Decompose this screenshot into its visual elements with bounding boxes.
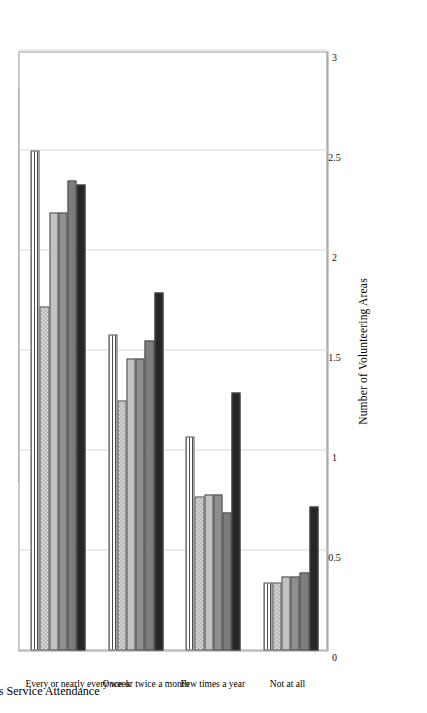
bar-catholic-every-or-nearly-every-week xyxy=(49,212,58,650)
value-axis-title: Number of Volunteering Areas xyxy=(356,51,368,651)
plot-area xyxy=(18,51,328,651)
value-tick-0-5: 0.5 xyxy=(328,551,341,562)
bar-mainline-protestant-few-times-a-year xyxy=(222,512,231,650)
bar-catholic-not-at-all xyxy=(281,576,290,650)
bar-catholic-once-or-twice-a-month xyxy=(126,358,135,650)
gridline-2-5 xyxy=(19,149,327,150)
bar-liberal-protestant-few-times-a-year xyxy=(231,392,240,650)
bar-evangelical-protestant-once-or-twice-a-month xyxy=(135,358,144,650)
category-label-few-times-a-year: Few times a year xyxy=(180,678,240,688)
value-tick-0: 0 xyxy=(332,651,337,662)
bar-mainline-protestant-not-at-all xyxy=(299,572,308,650)
bar-other-denomination-religion-not-at-all xyxy=(263,582,272,650)
bar-mainline-protestant-every-or-nearly-every-week xyxy=(67,180,76,650)
bar-mainline-protestant-once-or-twice-a-month xyxy=(144,340,153,650)
category-axis-line xyxy=(326,52,327,650)
category-axis-title: Religious Service Attendance xyxy=(0,680,183,700)
bar-evangelical-protestant-every-or-nearly-every-week xyxy=(58,212,67,650)
value-tick-1: 1 xyxy=(332,451,337,462)
value-tick-1-5: 1.5 xyxy=(328,351,341,362)
value-tick-2: 2 xyxy=(332,251,337,262)
bar-catholic-few-times-a-year xyxy=(204,494,213,650)
bar-liberal-protestant-not-at-all xyxy=(309,506,318,650)
bar-liberal-protestant-every-or-nearly-every-week xyxy=(76,184,85,650)
bar-other-denomination-religion-every-or-nearly-every-week xyxy=(30,150,39,650)
value-tick-3: 3 xyxy=(332,51,337,62)
bar-other-denomination-religion-few-times-a-year xyxy=(185,436,194,650)
bar-jewish-once-or-twice-a-month xyxy=(117,400,126,650)
bar-evangelical-protestant-few-times-a-year xyxy=(213,494,222,650)
bar-evangelical-protestant-not-at-all xyxy=(290,576,299,650)
category-label-not-at-all: Not at all xyxy=(257,678,317,688)
value-tick-2-5: 2.5 xyxy=(328,151,341,162)
bar-jewish-few-times-a-year xyxy=(194,496,203,650)
bar-jewish-not-at-all xyxy=(272,582,281,650)
bar-other-denomination-religion-once-or-twice-a-month xyxy=(108,334,117,650)
bar-liberal-protestant-once-or-twice-a-month xyxy=(154,292,163,650)
chart-canvas: 00.511.522.53 Number of Volunteering Are… xyxy=(0,0,427,713)
chart-screenshot: Liberal Protestant Mainline Protestant E… xyxy=(0,0,427,713)
gridline-3 xyxy=(19,49,327,50)
bar-jewish-every-or-nearly-every-week xyxy=(39,306,48,650)
